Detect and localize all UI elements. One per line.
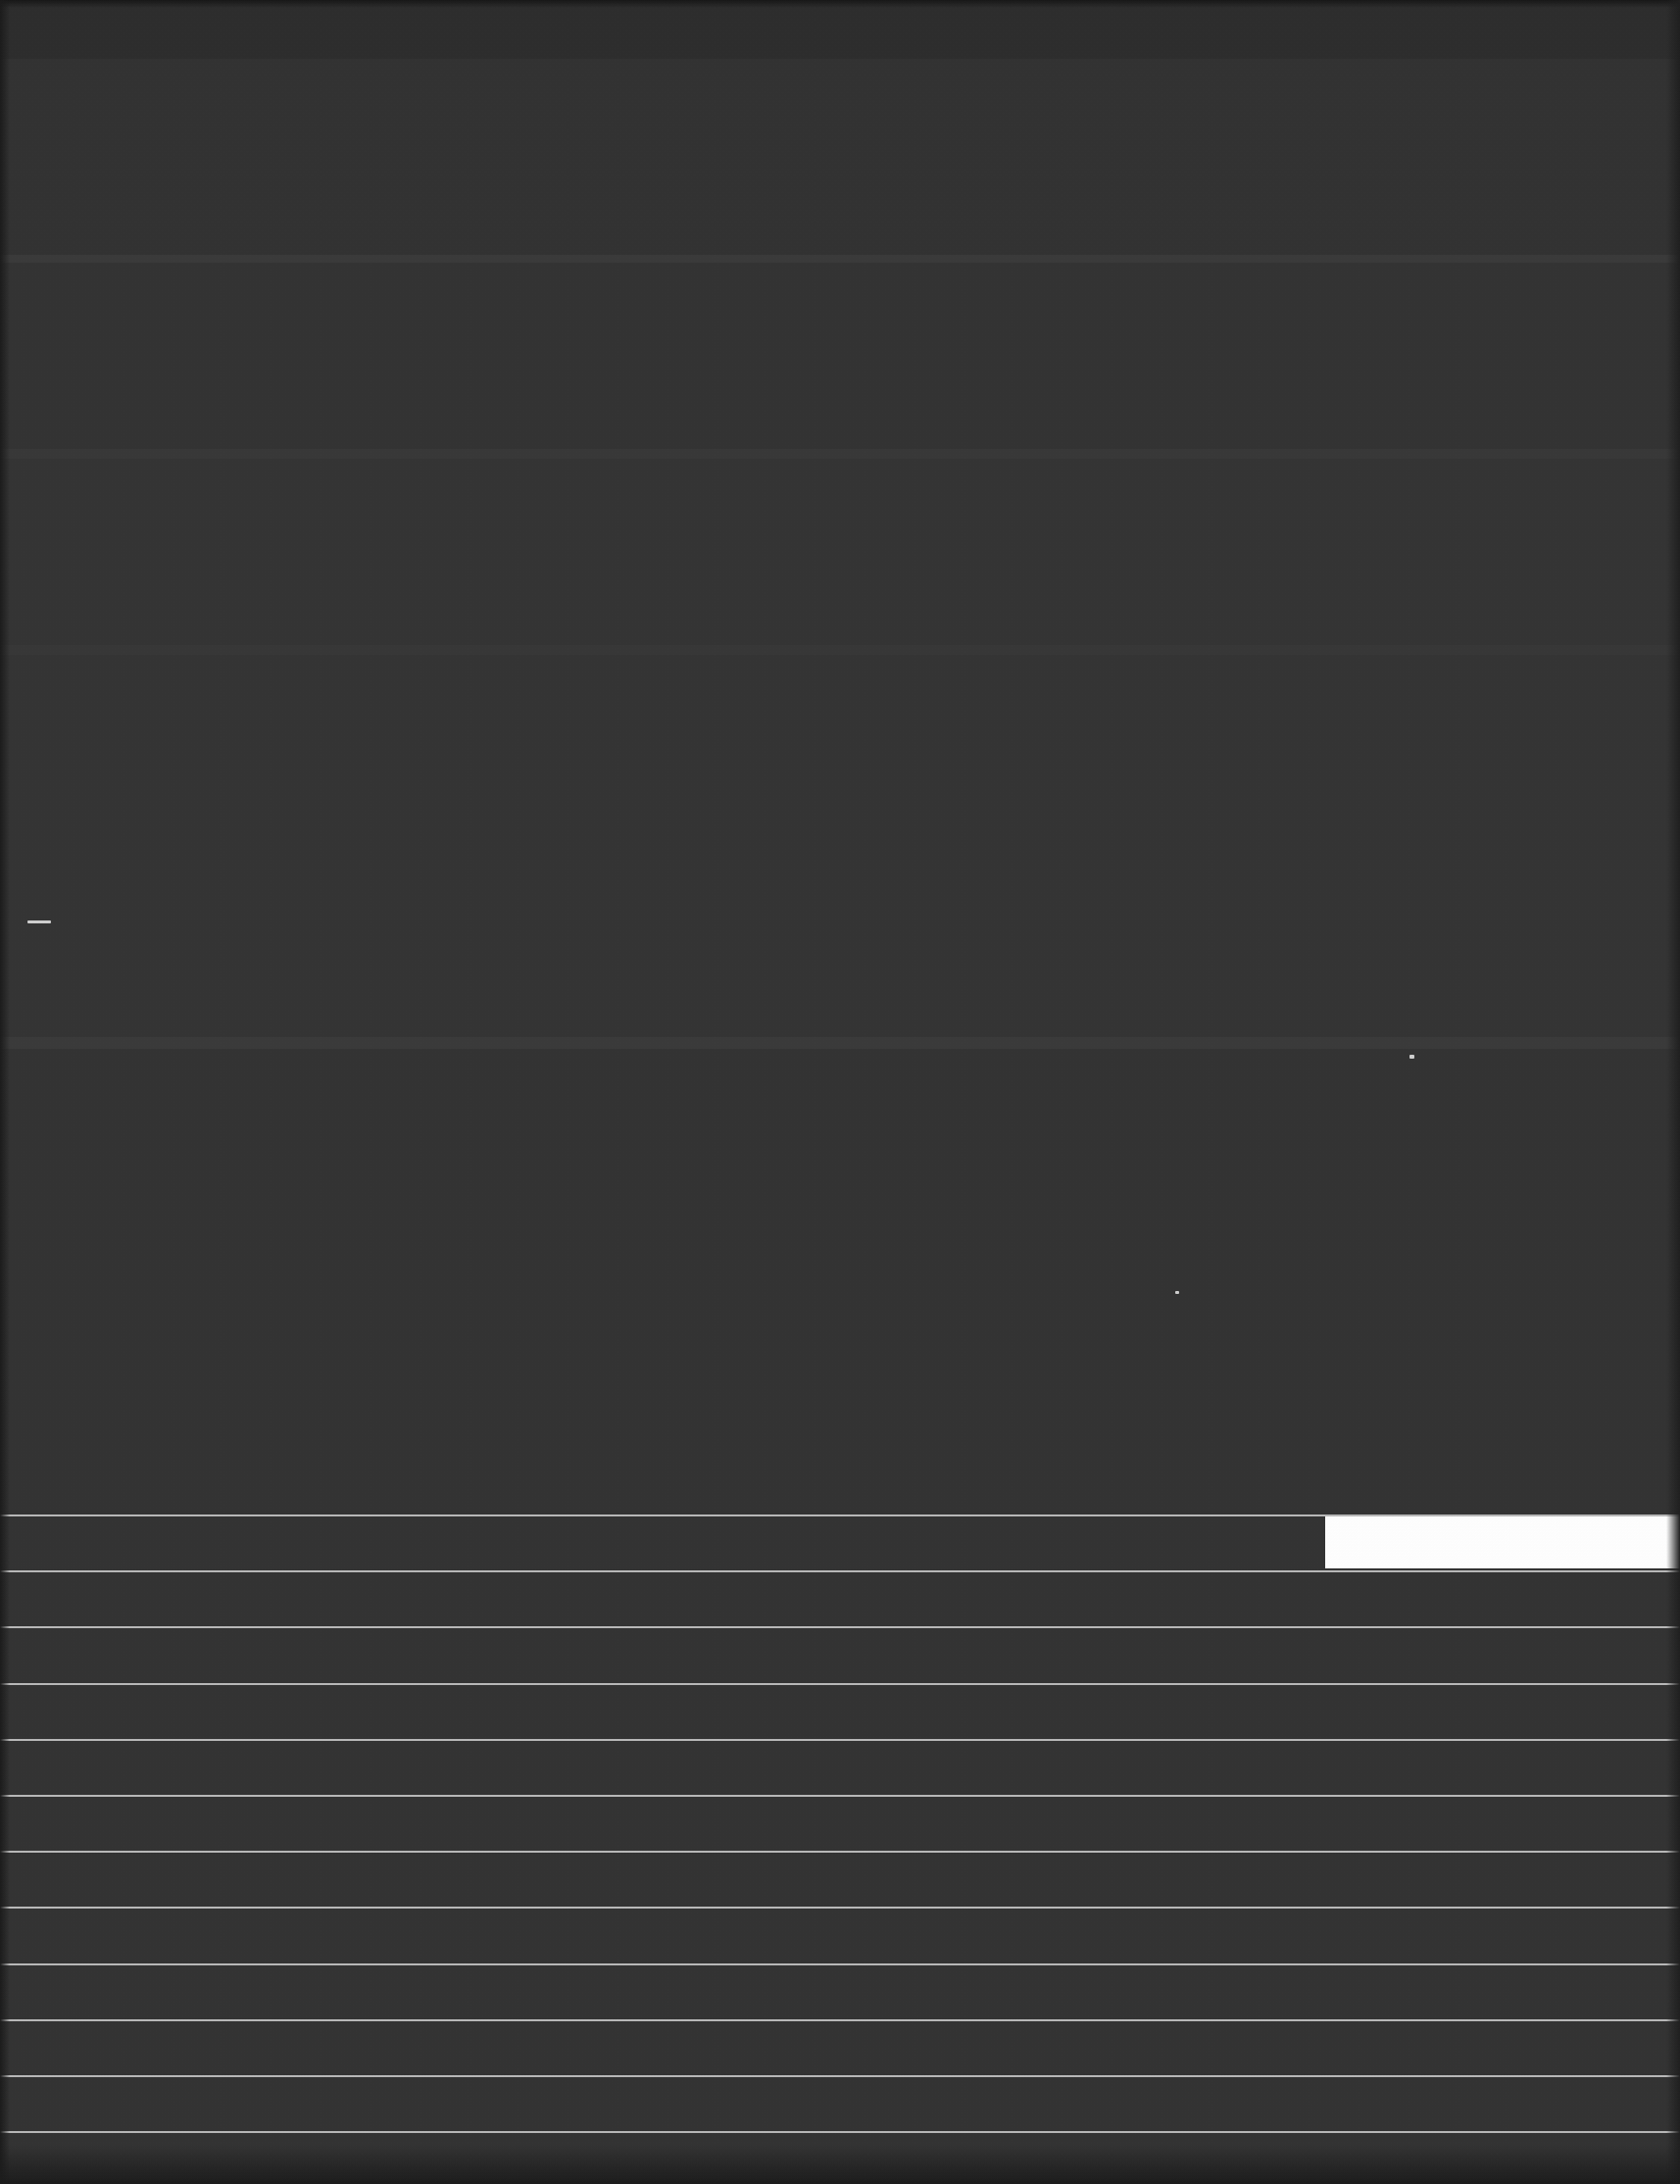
empty-lined-list[interactable] — [0, 1514, 1680, 2184]
stray-dash-left — [27, 920, 51, 923]
list-row-label — [0, 1572, 1680, 1626]
screen-capture — [0, 0, 1680, 2184]
edge-shade-right — [1666, 0, 1680, 2184]
empty-content-area[interactable] — [0, 0, 1680, 1514]
background-band — [0, 0, 1680, 59]
list-row[interactable] — [0, 1907, 1680, 1962]
list-row[interactable] — [0, 1851, 1680, 1907]
list-row-label — [0, 2077, 1680, 2131]
background-band — [0, 59, 1680, 255]
background-band — [0, 255, 1680, 263]
edge-shade-top — [0, 0, 1680, 8]
background-band — [0, 449, 1680, 459]
list-row[interactable] — [0, 1739, 1680, 1795]
stray-dot-mid — [1175, 1291, 1179, 1294]
list-row-label — [0, 1628, 1680, 1682]
list-row-label — [0, 1797, 1680, 1851]
background-band — [0, 459, 1680, 645]
stray-dot-upper — [1409, 1055, 1414, 1059]
background-band — [0, 655, 1680, 1037]
list-row-label — [0, 1909, 1680, 1962]
list-row-label — [0, 1965, 1680, 2019]
list-row-label — [0, 1853, 1680, 1907]
background-band — [0, 263, 1680, 449]
list-row[interactable] — [0, 1570, 1680, 1626]
list-row[interactable] — [0, 2075, 1680, 2131]
row-highlight-segment[interactable] — [1325, 1516, 1680, 1568]
list-row[interactable] — [0, 1795, 1680, 1851]
list-row[interactable] — [0, 1683, 1680, 1739]
background-band — [0, 1049, 1680, 1514]
list-row[interactable] — [0, 1514, 1680, 1570]
list-row-label — [0, 2021, 1680, 2075]
background-band — [0, 1037, 1680, 1049]
list-row[interactable] — [0, 1963, 1680, 2019]
list-row-label — [0, 1741, 1680, 1795]
list-row[interactable] — [0, 1626, 1680, 1682]
list-row[interactable] — [0, 2019, 1680, 2075]
edge-shade-bottom — [0, 2145, 1680, 2184]
edge-shade-left — [0, 0, 10, 2184]
background-band — [0, 645, 1680, 655]
list-row-label — [0, 1685, 1680, 1739]
